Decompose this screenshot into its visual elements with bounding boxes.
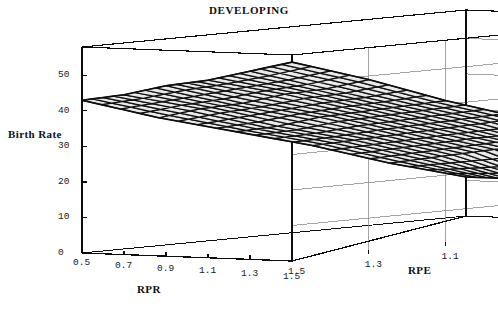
z-tick-label-2: 20 xyxy=(58,176,69,187)
surface-mesh xyxy=(82,62,498,181)
z-tick-label-1: 10 xyxy=(58,211,69,222)
x-tick-label-4: 1.3 xyxy=(241,268,258,279)
chart-figure: DEVELOPING Birth Rate RPR RPE 0102030405… xyxy=(0,0,498,315)
z-tick-label-5: 50 xyxy=(58,69,69,80)
z-tick-label-4: 40 xyxy=(58,105,69,116)
x-tick-label-0: 0.5 xyxy=(73,257,90,268)
x-tick-label-1: 0.7 xyxy=(115,260,132,271)
z-axis-label: Birth Rate xyxy=(8,128,62,140)
x-tick-label-2: 0.9 xyxy=(157,263,174,274)
plot-floor-gridlines xyxy=(82,216,498,253)
z-tick-label-0: 0 xyxy=(58,247,64,258)
y-tick-label-2: 1.1 xyxy=(442,251,459,262)
z-tick-label-3: 30 xyxy=(58,140,69,151)
y-axis-label: RPE xyxy=(408,264,431,276)
x-tick-label-3: 1.1 xyxy=(199,265,216,276)
y-tick-label-0: 1.5 xyxy=(288,266,305,277)
y-tick-label-1: 1.3 xyxy=(365,259,382,270)
x-axis-label: RPR xyxy=(137,283,161,295)
